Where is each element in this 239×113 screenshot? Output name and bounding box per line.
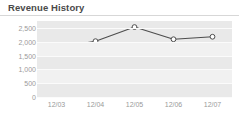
data-point-marker[interactable] bbox=[210, 34, 215, 39]
plot-band bbox=[37, 69, 232, 83]
gridline bbox=[37, 42, 232, 43]
gridline bbox=[37, 56, 232, 57]
plot-band bbox=[37, 42, 232, 56]
x-tick-label: 12/04 bbox=[87, 101, 105, 108]
chart-header: Revenue History bbox=[0, 0, 239, 16]
x-tick-label: 12/03 bbox=[48, 101, 66, 108]
page-title: Revenue History bbox=[8, 2, 84, 13]
y-tick-label: 1,500 bbox=[2, 52, 36, 59]
y-axis: 05001,0001,5002,0002,500 bbox=[0, 21, 36, 97]
y-tick-label: 1,000 bbox=[2, 66, 36, 73]
gridline bbox=[37, 97, 232, 98]
revenue-history-chart-widget: Revenue History 05001,0001,5002,0002,500… bbox=[0, 0, 239, 113]
y-tick-label: 500 bbox=[2, 80, 36, 87]
gridline bbox=[37, 69, 232, 70]
x-tick-label: 12/05 bbox=[126, 101, 144, 108]
x-tick-label: 12/07 bbox=[204, 101, 222, 108]
y-tick-label: 2,500 bbox=[2, 24, 36, 31]
x-axis: 12/0312/0412/0512/0612/07 bbox=[37, 101, 232, 113]
x-tick-label: 12/06 bbox=[165, 101, 183, 108]
chart-plot-wrapper: 05001,0001,5002,0002,500 12/0312/0412/05… bbox=[0, 16, 239, 113]
y-tick-label: 2,000 bbox=[2, 38, 36, 45]
plot-area bbox=[37, 21, 232, 97]
gridline bbox=[37, 28, 232, 29]
y-tick-label: 0 bbox=[2, 94, 36, 101]
line-series-svg bbox=[37, 21, 232, 97]
gridline bbox=[37, 83, 232, 84]
